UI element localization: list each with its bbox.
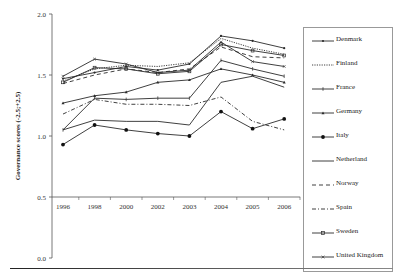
y-tick-label: 1.5 [37,72,46,80]
legend-item: Finland [304,58,392,72]
legend-line-swatch-icon [312,37,334,45]
legend-line-swatch-icon [312,229,334,237]
bottom-divider [10,268,393,269]
legend-label: Norway [336,179,359,187]
legend-item: Netherland [304,154,392,168]
x-tick-label: 1996 [56,203,71,211]
legend-label: Finland [336,59,357,67]
series-italy [61,110,286,147]
legend-label: Spain [336,203,352,211]
series-sweden [62,43,286,84]
series-norway [63,47,284,84]
legend-label: Sweden [336,227,358,235]
legend-label: United Kingdom [336,251,383,259]
legend-item: Germany [304,106,392,120]
legend-item: France [304,82,392,96]
x-tick-label: 2002 [151,203,166,211]
legend-line-swatch-icon [312,253,334,261]
legend-item: Spain [304,202,392,216]
legend-item: Italy [304,130,392,144]
legend-item: United Kingdom [304,250,392,264]
series-netherland [63,76,284,130]
legend-item: Sweden [304,226,392,240]
x-tick-label: 2005 [246,203,261,211]
legend-line-swatch-icon [312,157,334,165]
x-tick-label: 2004 [214,203,229,211]
y-tick-label: 2.0 [37,11,46,19]
series-denmark [62,35,285,80]
legend-item: Denmark [304,34,392,48]
y-axis-title: Governance scores (-2.5;+2.5) [14,91,22,180]
chart-legend: DenmarkFinlandFranceGermanyItalyNetherla… [303,27,393,272]
x-tick-label: 1998 [88,203,103,211]
legend-item: Norway [304,178,392,192]
legend-line-swatch-icon [312,61,334,69]
legend-line-swatch-icon [312,205,334,213]
x-tick-label: 2000 [119,203,134,211]
legend-line-swatch-icon [312,109,334,117]
legend-label: Italy [336,131,349,139]
y-tick-label: 0.5 [37,194,46,202]
legend-label: Germany [336,107,362,115]
legend-label: France [336,83,355,91]
legend-line-swatch-icon [312,85,334,93]
x-tick-label: 2006 [277,203,292,211]
legend-line-swatch-icon [312,133,334,141]
chart-series [61,35,286,147]
chart-axes: 0.00.51.01.52.01996199820002002200320042… [14,11,300,263]
legend-label: Netherland [336,155,367,163]
legend-line-swatch-icon [312,181,334,189]
y-tick-label: 0.0 [37,255,46,263]
x-tick-label: 2003 [182,203,197,211]
legend-label: Denmark [336,35,362,43]
y-tick-label: 1.0 [37,133,46,141]
